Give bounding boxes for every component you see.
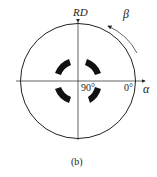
- blob-top-left: [55, 59, 71, 75]
- rd-axis-label: RD: [73, 7, 88, 18]
- figure-caption: (b): [71, 157, 83, 167]
- pole-figure: [0, 0, 157, 177]
- angle-0-label: 0°: [124, 83, 133, 93]
- beta-rotation-arrow: [108, 26, 137, 53]
- angle-90-label: 90°: [81, 83, 95, 93]
- beta-label: β: [123, 8, 129, 20]
- blob-bottom-left: [55, 87, 71, 103]
- blob-top-right: [85, 59, 101, 75]
- alpha-label: α: [143, 83, 149, 95]
